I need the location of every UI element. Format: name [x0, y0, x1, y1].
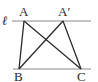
- label-point-a-prime: A′: [58, 4, 70, 19]
- label-point-a: A: [19, 4, 29, 19]
- label-line-l: ℓ: [2, 13, 8, 28]
- label-point-c: C: [77, 69, 86, 82]
- geometry-diagram: ℓ A A′ B C: [0, 0, 98, 82]
- label-point-b: B: [14, 69, 23, 82]
- segment-ab: [19, 21, 24, 69]
- segment-a-prime-b: [19, 21, 63, 69]
